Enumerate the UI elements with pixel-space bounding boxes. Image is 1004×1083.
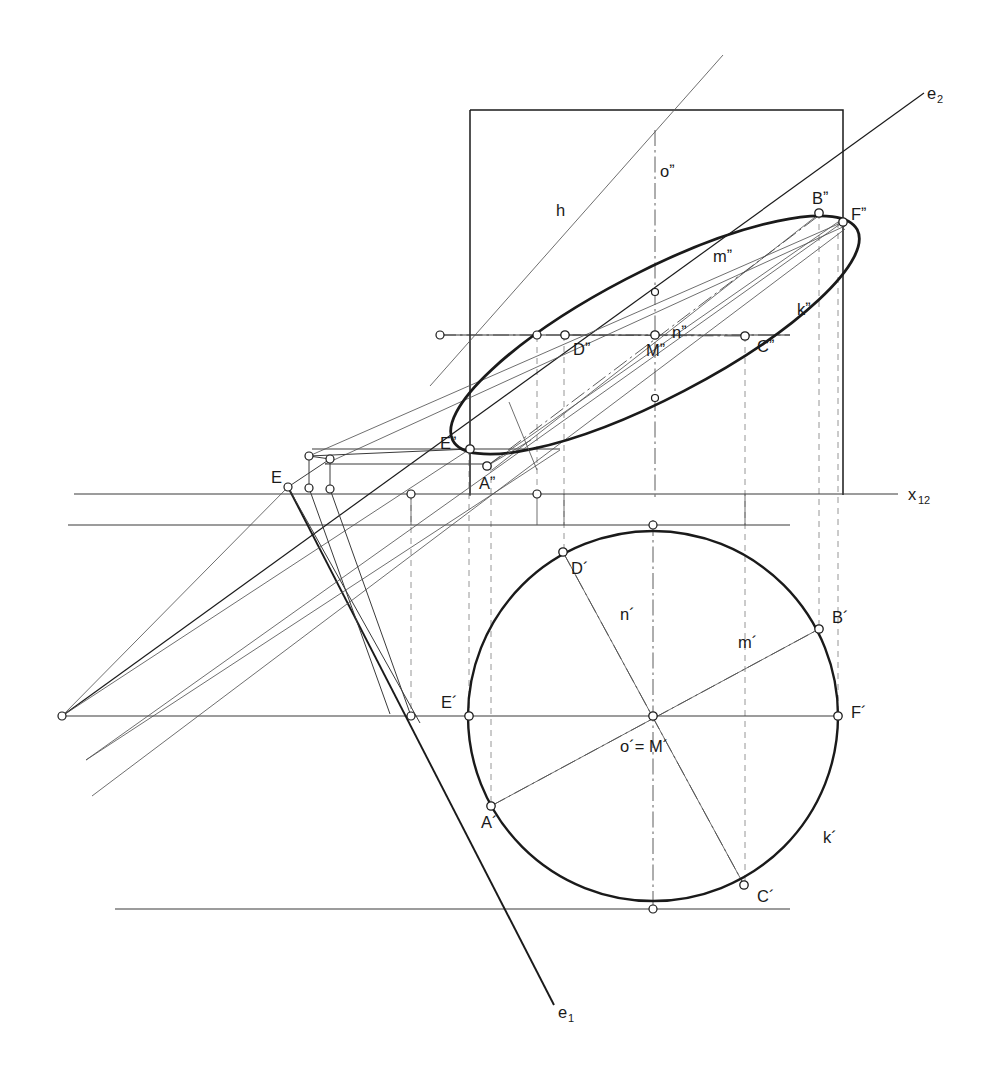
marker-circle-bottom — [649, 905, 657, 913]
point-label-A1: A´ — [481, 813, 498, 831]
point-label-A2: Aˮ — [479, 474, 496, 492]
drawing-background — [0, 0, 1004, 1083]
point-marker-B1 — [815, 625, 823, 633]
label-k-front: kˮ — [797, 300, 811, 318]
marker-vanishing-point — [58, 712, 66, 720]
point-marker-E2p — [466, 445, 474, 453]
point-marker-D2 — [561, 331, 569, 339]
label-axis-x12-subscript: 12 — [918, 494, 930, 506]
point-marker-F1 — [834, 712, 842, 720]
marker-rabat-2 — [326, 455, 334, 463]
point-marker-M1 — [649, 712, 657, 720]
point-label-B1: B´ — [832, 608, 849, 626]
label-axis-e1: e — [558, 1003, 567, 1021]
point-label-E1p: E´ — [441, 693, 458, 711]
marker-rabat-1 — [305, 452, 313, 460]
marker-aux-n-mid — [533, 331, 541, 339]
marker-ellipse-upper — [652, 289, 659, 296]
label-n-front: nˮ — [672, 323, 687, 341]
label-axis-e1-subscript: 1 — [568, 1012, 574, 1024]
point-label-D2: Dˮ — [573, 340, 590, 358]
point-label-F1: F´ — [851, 703, 867, 721]
label-o-front: oˮ — [660, 162, 675, 180]
point-label-E2p: Eˮ — [440, 434, 457, 452]
point-label-M2: Mˮ — [646, 341, 665, 359]
marker-aux-n-left — [436, 331, 444, 339]
label-E-true: E — [271, 468, 282, 486]
label-centre-top: o´= M´ — [620, 737, 668, 755]
point-marker-C2 — [741, 332, 749, 340]
point-label-B2: Bˮ — [812, 189, 829, 207]
marker-E-true — [284, 483, 292, 491]
point-marker-A2 — [483, 462, 491, 470]
technical-drawing-canvas: AˮBˮCˮDˮEˮFˮMˮA´B´C´D´E´F´ h oˮ mˮ nˮ kˮ… — [0, 0, 1004, 1083]
marker-rabat-4 — [326, 485, 334, 493]
marker-circle-top — [649, 521, 657, 529]
marker-rabat-3 — [305, 484, 313, 492]
point-marker-D1 — [559, 548, 567, 556]
point-marker-F2 — [839, 218, 847, 226]
descriptive-geometry-figure: AˮBˮCˮDˮEˮFˮMˮA´B´C´D´E´F´ h oˮ mˮ nˮ kˮ… — [0, 0, 1004, 1083]
label-axis-e2: e — [927, 84, 936, 102]
marker-left-aux-716 — [407, 712, 415, 720]
point-marker-B2 — [815, 209, 823, 217]
marker-ellipse-lower — [652, 395, 659, 402]
label-h-line: h — [556, 201, 565, 219]
label-n-top: n´ — [620, 605, 635, 623]
marker-aux-mid-axis — [533, 490, 541, 498]
label-m-front: mˮ — [713, 247, 732, 265]
point-marker-C1 — [740, 881, 748, 889]
point-label-C1: C´ — [757, 887, 774, 905]
point-marker-E1p — [465, 712, 473, 720]
marker-aux-left-axis — [407, 490, 415, 498]
label-axis-x12: x — [908, 485, 917, 503]
point-label-C2: Cˮ — [757, 337, 774, 355]
label-k-top: k´ — [823, 828, 837, 846]
point-label-F2: Fˮ — [851, 205, 867, 223]
point-marker-A1 — [487, 802, 495, 810]
point-label-D1: D´ — [571, 559, 588, 577]
label-axis-e2-subscript: 2 — [937, 93, 943, 105]
point-marker-M2 — [651, 331, 659, 339]
label-m-top: m´ — [738, 633, 757, 651]
